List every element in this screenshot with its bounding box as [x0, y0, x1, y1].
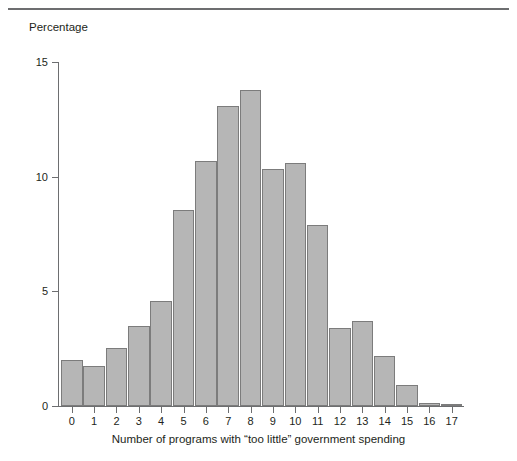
x-axis-tick [273, 407, 274, 413]
x-axis-tick-label: 7 [225, 415, 231, 427]
x-axis-tick-label: 11 [312, 415, 323, 427]
x-axis-tick [206, 407, 207, 413]
x-axis-tick-label: 0 [69, 415, 75, 427]
x-axis-tick-label: 8 [247, 415, 253, 427]
x-axis-tick-label: 10 [289, 415, 301, 427]
x-axis-tick [340, 407, 341, 413]
x-axis-tick-label: 2 [113, 415, 119, 427]
x-axis-label: Number of programs with “too little” gov… [0, 433, 517, 445]
x-axis-tick [228, 407, 229, 413]
x-axis-tick [452, 407, 453, 413]
x-axis-tick [251, 407, 252, 413]
x-axis-tick-label: 17 [446, 415, 458, 427]
bar [307, 225, 329, 406]
bar [419, 403, 441, 406]
y-axis-tick [52, 291, 58, 292]
x-axis-tick [385, 407, 386, 413]
x-axis-tick [139, 407, 140, 413]
bar [83, 366, 105, 406]
x-axis-tick-label: 9 [270, 415, 276, 427]
bar [285, 163, 307, 406]
bar [61, 360, 83, 406]
x-axis-tick [184, 407, 185, 413]
x-axis-tick [72, 407, 73, 413]
x-axis-tick-label: 5 [180, 415, 186, 427]
bar [329, 328, 351, 406]
y-axis-tick-label: 15 [36, 56, 48, 68]
y-axis-tick [52, 62, 58, 63]
y-axis-tick-label: 0 [42, 400, 48, 412]
bar [352, 321, 374, 406]
y-axis-tick-label: 5 [42, 285, 48, 297]
x-axis-tick-label: 6 [203, 415, 209, 427]
y-axis-tick [52, 406, 58, 407]
x-axis-tick [362, 407, 363, 413]
x-axis-tick [295, 407, 296, 413]
y-axis-tick [52, 177, 58, 178]
x-axis-tick [94, 407, 95, 413]
bar [106, 348, 128, 406]
x-axis-tick-label: 12 [334, 415, 346, 427]
x-axis-tick-label: 3 [136, 415, 142, 427]
x-axis-line [58, 406, 464, 407]
x-axis-tick-label: 13 [356, 415, 368, 427]
bar [195, 161, 217, 406]
bar [262, 169, 284, 406]
bar [374, 356, 396, 406]
bar [150, 301, 172, 406]
x-axis-tick-label: 14 [379, 415, 391, 427]
bar [128, 326, 150, 406]
x-axis-tick-label: 15 [401, 415, 413, 427]
x-axis-tick [429, 407, 430, 413]
y-axis-line [58, 62, 59, 407]
x-axis-tick [161, 407, 162, 413]
y-axis-label: Percentage [29, 21, 88, 33]
bar-chart: Percentage 051015 0123456789101112131415… [0, 0, 517, 461]
bar [441, 404, 463, 406]
x-axis-tick [318, 407, 319, 413]
x-axis-tick [116, 407, 117, 413]
bar [396, 385, 418, 406]
y-axis-tick-label: 10 [36, 171, 48, 183]
x-axis-tick-label: 16 [423, 415, 435, 427]
x-axis-tick-label: 1 [91, 415, 97, 427]
bar [240, 90, 262, 406]
x-axis-tick [407, 407, 408, 413]
bar [217, 106, 239, 406]
x-axis-tick-label: 4 [158, 415, 164, 427]
bar [173, 210, 195, 406]
